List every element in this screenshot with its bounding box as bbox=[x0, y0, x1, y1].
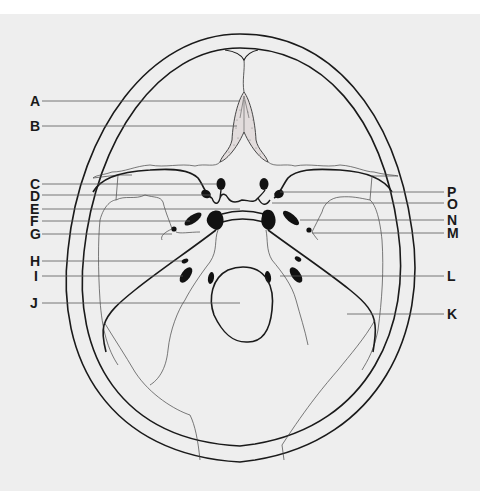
sella-turcica-outline bbox=[212, 190, 270, 204]
optic-canal-left bbox=[217, 178, 226, 190]
label-A: A bbox=[30, 94, 40, 108]
sphenoid-ridge-right bbox=[274, 169, 392, 198]
hypoglossal-canal-left bbox=[207, 272, 215, 285]
internal-acoustic-meatus-left bbox=[181, 258, 189, 265]
foramen-magnum bbox=[211, 267, 272, 342]
optic-canal-right bbox=[260, 178, 269, 190]
label-J: J bbox=[30, 296, 38, 310]
middle-fossa-border-right bbox=[362, 176, 383, 370]
foramen-lacerum-right bbox=[261, 210, 275, 230]
label-L: L bbox=[447, 269, 456, 283]
foramen-lacerum-left bbox=[207, 210, 224, 230]
foramen-spinosum-right bbox=[306, 227, 311, 232]
label-B: B bbox=[30, 119, 40, 133]
frontal-crest bbox=[243, 60, 244, 92]
jugular-foramen-right bbox=[287, 265, 305, 285]
foramen-ovale-left bbox=[183, 210, 204, 228]
label-O: O bbox=[447, 197, 458, 211]
foramen-ovale-right bbox=[281, 209, 301, 228]
jugular-foramen-left bbox=[177, 265, 195, 285]
middle-fossa-border-left bbox=[99, 175, 119, 365]
label-K: K bbox=[447, 307, 457, 321]
label-I: I bbox=[34, 269, 38, 283]
lambdoid-suture-right bbox=[282, 320, 375, 460]
label-G: G bbox=[30, 227, 41, 241]
label-M: M bbox=[447, 226, 459, 240]
label-H: H bbox=[30, 254, 40, 268]
petrous-ridge-right bbox=[268, 230, 375, 352]
internal-acoustic-meatus-right bbox=[294, 255, 302, 262]
superior-orbital-fissure-left bbox=[200, 188, 213, 200]
petrous-ridge-left bbox=[103, 230, 216, 352]
skull-base-diagram bbox=[0, 0, 480, 491]
